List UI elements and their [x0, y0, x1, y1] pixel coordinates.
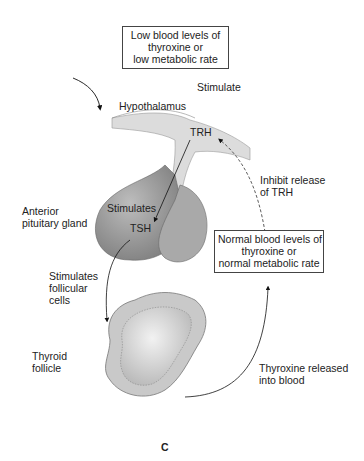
stimulate-label: Stimulate — [197, 81, 241, 93]
thyroxine-released-label-2: into blood — [259, 374, 305, 386]
stimulates-follicular-label-3: cells — [49, 294, 70, 306]
anterior-pituitary-label-2: pituitary gland — [22, 217, 87, 229]
box-line: thyroxine or — [126, 41, 225, 53]
trh-label: TRH — [190, 126, 212, 138]
low-thyroxine-box: Low blood levels of thyroxine or low met… — [122, 26, 229, 69]
hypothalamus-label: Hypothalamus — [119, 100, 186, 112]
inhibit-label-2: of TRH — [260, 186, 293, 198]
thyroid-feedback-diagram: Low blood levels of thyroxine or low met… — [0, 0, 364, 461]
box-line: low metabolic rate — [126, 53, 225, 65]
stimulates-follicular-label-1: Stimulates — [49, 270, 98, 282]
stimulates-follicular-label-2: follicular — [49, 282, 88, 294]
thyroid-follicle-shape — [106, 293, 206, 397]
stimulates-label: Stimulates — [107, 202, 156, 214]
thyroid-follicle-label-1: Thyroid — [32, 350, 67, 362]
thyroxine-released-label-1: Thyroxine released — [259, 362, 348, 374]
tsh-label: TSH — [130, 222, 151, 234]
anterior-pituitary-label-1: Anterior — [22, 205, 59, 217]
box-line: normal metabolic rate — [218, 257, 320, 269]
box-line: thyroxine or — [218, 245, 320, 257]
thyroid-follicle-label-2: follicle — [32, 362, 61, 374]
panel-label: C — [161, 441, 169, 453]
normal-thyroxine-box: Normal blood levels of thyroxine or norm… — [214, 230, 324, 273]
box-line: Normal blood levels of — [218, 233, 320, 245]
box-line: Low blood levels of — [126, 29, 225, 41]
inhibit-label-1: Inhibit release — [260, 174, 325, 186]
